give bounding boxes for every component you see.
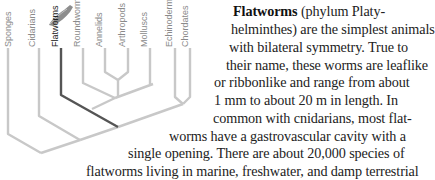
taxon-label-annelids: Annelids <box>94 12 104 47</box>
taxon-label-echinoderms: Echinoderms <box>164 0 174 47</box>
branch-root <box>41 140 80 153</box>
branch-deut <box>118 104 183 127</box>
branch-roundworms <box>83 48 115 98</box>
taxon-label-arthropods: Arthropods <box>117 2 127 47</box>
text-line-4: their name, these worms are leaflike <box>226 56 428 74</box>
text-line-3: with bilateral symmetry. True to <box>229 38 408 56</box>
branch-arthropods <box>118 48 128 96</box>
text-line-2: helminthes) are the simplest animals <box>231 20 435 38</box>
text-line-9: single opening. There are about 20,000 s… <box>128 144 405 162</box>
branch-proto <box>92 98 115 109</box>
branch-echinoderms <box>175 48 183 104</box>
branch-bilateria <box>80 127 118 140</box>
text-line-10: flatworms living in marine, freshwater, … <box>86 162 419 180</box>
text-line-1: Flatworms (phylum Platy- <box>233 2 385 20</box>
taxon-label-chordates: Chordates <box>180 5 190 47</box>
text-line-6: 1 mm to about 20 m in length. In <box>214 91 398 109</box>
branch-lopho <box>115 84 153 98</box>
branch-sponges <box>8 48 41 153</box>
text-line-7: common with cnidarians, most flat- <box>213 109 412 127</box>
taxon-label-cidarians: Cidarians <box>27 8 37 47</box>
text-line-5: or ribbonlike and range from about <box>214 73 410 91</box>
branch-chordates <box>183 48 190 104</box>
taxon-label-sponges: Sponges <box>3 11 13 47</box>
branch-cidarians <box>39 48 80 140</box>
branch-flatworms <box>61 48 118 127</box>
taxon-label-molluscs: Molluscs <box>139 11 149 47</box>
taxon-label-roundworms: Roundworms <box>72 0 82 47</box>
taxon-label-flatworms: Flatworms <box>50 5 60 47</box>
branch-annelids <box>105 48 118 80</box>
term-flatworms: Flatworms <box>233 3 298 19</box>
text-line-8: worms have a gastrovascular cavity with … <box>169 127 406 145</box>
